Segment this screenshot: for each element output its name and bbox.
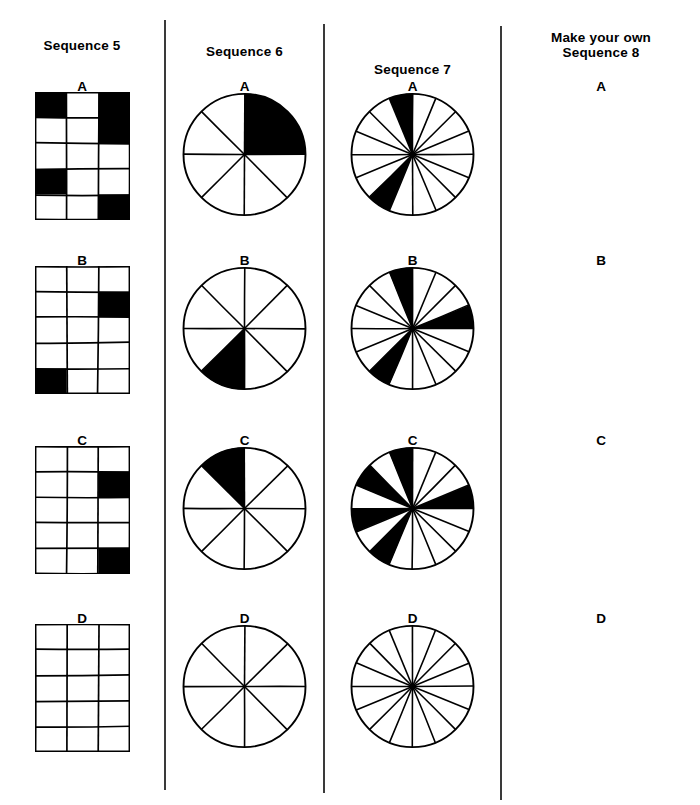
grid-cell-filled [35, 169, 67, 195]
pie-figure-sequence-6-b[interactable] [182, 266, 307, 391]
column-heading-sequence-6: Sequence 6 [166, 44, 323, 59]
grid-figure-sequence-5-b[interactable] [35, 266, 130, 394]
answer-slot-sequence-8-d[interactable] [502, 624, 700, 749]
grid-figure-sequence-5-d[interactable] [35, 624, 130, 752]
pie-figure-sequence-6-d[interactable] [182, 624, 307, 749]
grid-cell-filled [98, 194, 130, 220]
grid-cell-filled [98, 472, 130, 498]
grid-cell-filled [98, 118, 130, 144]
pie-figure-sequence-6-c[interactable] [182, 446, 307, 571]
column-heading-sequence-5: Sequence 5 [0, 38, 164, 53]
answer-slot-sequence-8-b[interactable] [502, 266, 700, 391]
column-heading-line: Sequence 8 [502, 45, 700, 60]
pie-figure-sequence-7-b[interactable] [350, 266, 475, 391]
column-heading-line: Sequence 6 [166, 44, 323, 59]
answer-slot-sequence-8-c[interactable] [502, 446, 700, 571]
grid-cell-filled [35, 368, 67, 394]
column-heading-line: Make your own [502, 30, 700, 45]
answer-slot-sequence-8-a[interactable] [502, 92, 700, 217]
column-sequence-6: Sequence 6ABCD [166, 0, 323, 805]
grid-figure-sequence-5-a[interactable] [35, 92, 130, 220]
column-heading-sequence-8: Make your ownSequence 8 [502, 30, 700, 60]
column-heading-line: Sequence 5 [0, 38, 164, 53]
grid-cell-filled [35, 92, 67, 118]
pie-segment-filled [201, 448, 244, 509]
pie-figure-sequence-7-c[interactable] [350, 446, 475, 571]
column-heading-sequence-7: Sequence 7 [325, 62, 500, 77]
column-sequence-8: Make your ownSequence 8ABCD [502, 0, 700, 805]
grid-cell-filled [98, 92, 130, 118]
pie-figure-sequence-7-d[interactable] [350, 624, 475, 749]
grid-cell-filled [98, 292, 130, 318]
grid-figure-sequence-5-c[interactable] [35, 446, 130, 574]
column-heading-line: Sequence 7 [325, 62, 500, 77]
column-sequence-5: Sequence 5ABCD [0, 0, 164, 805]
pie-figure-sequence-7-a[interactable] [350, 92, 475, 217]
worksheet-sheet: Sequence 5ABCDSequence 6ABCDSequence 7AB… [0, 0, 700, 805]
pie-segment-filled [201, 329, 244, 390]
column-sequence-7: Sequence 7ABCD [325, 0, 500, 805]
pie-figure-sequence-6-a[interactable] [182, 92, 307, 217]
grid-cell-filled [98, 548, 130, 574]
